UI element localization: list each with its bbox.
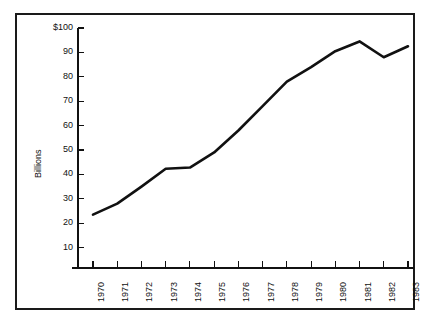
- data-line: [93, 41, 408, 214]
- chart-figure: Billions 102030405060708090$100 19701971…: [0, 0, 429, 323]
- plot-area: [0, 0, 429, 323]
- axes-lines: [72, 28, 414, 268]
- data-line-series: [93, 41, 408, 214]
- axis-ticks: [78, 28, 408, 268]
